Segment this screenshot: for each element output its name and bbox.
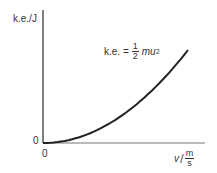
curve-annotation: k.e. = 1 2 mu2 xyxy=(104,42,160,61)
x-axis-variable: v xyxy=(174,153,179,164)
ke-curve xyxy=(43,50,188,143)
x-origin-label: 0 xyxy=(42,148,48,159)
x-axis-label: v / m s xyxy=(174,149,194,168)
x-axis-unit: m s xyxy=(185,149,195,168)
y-axis-label: k.e./J xyxy=(13,13,37,24)
fraction-denominator: 2 xyxy=(132,52,139,61)
annotation-expr: mu xyxy=(142,46,156,57)
unit-denominator: s xyxy=(185,159,195,168)
chart-plot xyxy=(0,0,217,173)
annotation-prefix: k.e. = xyxy=(104,46,129,57)
y-origin-label: 0 xyxy=(33,135,39,146)
annotation-exponent: 2 xyxy=(156,48,160,55)
annotation-fraction: 1 2 xyxy=(132,42,139,61)
slash: / xyxy=(180,151,184,166)
